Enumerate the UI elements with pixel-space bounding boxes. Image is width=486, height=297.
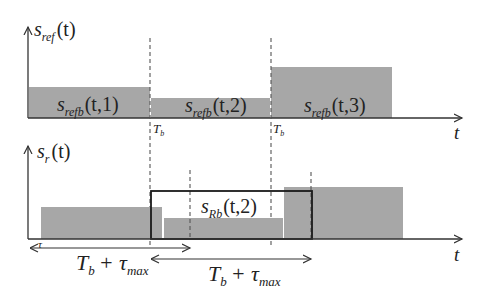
top-panel: sref(t) t srefb(t,1) srefb(t,2) srefb(t,… [28, 18, 462, 143]
signal-timing-diagram: sref(t) t srefb(t,1) srefb(t,2) srefb(t,… [0, 0, 486, 297]
rx-block-2 [164, 218, 283, 239]
window-label: sRb(t,2) [201, 195, 257, 221]
rx-block-3 [284, 187, 403, 239]
tb-marker-2: Tb [273, 121, 284, 138]
span-2-label: Tb+ τmax [208, 261, 281, 289]
top-y-label: sref(t) [34, 18, 76, 44]
tb-marker-1: Tb [153, 121, 164, 138]
bottom-x-label: t [454, 244, 460, 265]
span-1-label: Tb+ τmax [76, 250, 149, 278]
rx-block-1 [41, 207, 162, 239]
bottom-panel: sRb(t,2) sr(t) t τ Tb+ τmax Tb+ τmax [28, 140, 462, 289]
top-x-label: t [454, 122, 460, 143]
bottom-y-label: sr(t) [37, 140, 70, 166]
